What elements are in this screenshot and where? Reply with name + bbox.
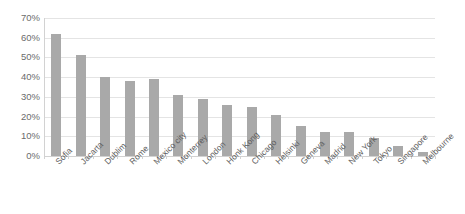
y-axis-tick-label: 70%	[2, 13, 40, 23]
bar	[51, 34, 61, 156]
y-axis-tick-label: 40%	[2, 72, 40, 82]
bar-slot	[44, 18, 68, 156]
y-axis-tick-label: 30%	[2, 92, 40, 102]
bar-slot	[288, 18, 312, 156]
y-axis-tick-label: 0%	[2, 151, 40, 161]
bar-slot	[68, 18, 92, 156]
y-axis-labels: 70%60%50%40%30%20%10%0%	[0, 0, 40, 214]
bar-slot	[313, 18, 337, 156]
y-axis-tick-label: 60%	[2, 33, 40, 43]
bar	[76, 55, 86, 156]
x-axis-labels: SofiaJacartaDublimRomeMexico cityMonterr…	[44, 160, 435, 214]
bar-slot	[142, 18, 166, 156]
y-axis-tick-label: 10%	[2, 131, 40, 141]
bar-chart: 70%60%50%40%30%20%10%0% SofiaJacartaDubl…	[0, 0, 465, 214]
bar-slot	[215, 18, 239, 156]
bar-slot	[264, 18, 288, 156]
y-axis-tick-label: 50%	[2, 52, 40, 62]
bar-series	[44, 18, 435, 156]
bar-slot	[386, 18, 410, 156]
x-axis-tick	[44, 156, 45, 159]
bar-slot	[337, 18, 361, 156]
bar-slot	[93, 18, 117, 156]
y-axis-tick-label: 20%	[2, 112, 40, 122]
bar-slot	[117, 18, 141, 156]
bar	[149, 79, 159, 156]
